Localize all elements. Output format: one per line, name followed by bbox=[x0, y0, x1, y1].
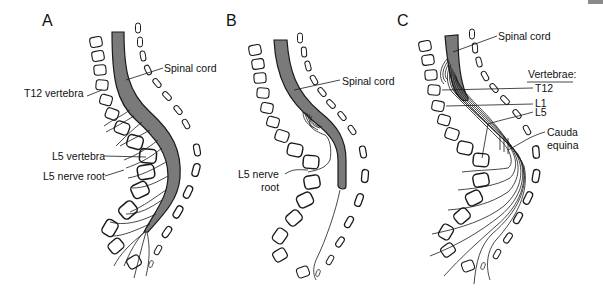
panel-c-label-equina: equina bbox=[547, 139, 579, 151]
panel-a-t12-leader bbox=[87, 90, 102, 96]
panel-a-label-spinal-cord: Spinal cord bbox=[164, 62, 217, 74]
spine-diagram bbox=[0, 0, 603, 294]
panel-a-label-t12-vertebra: T12 vertebra bbox=[24, 87, 84, 99]
panel-c-label-spinal-cord: Spinal cord bbox=[498, 30, 551, 42]
panel-c-l1-leader bbox=[446, 104, 533, 106]
panel-c-label-t12: T12 bbox=[535, 82, 553, 94]
panel-b-label-spinal-cord: Spinal cord bbox=[342, 75, 395, 87]
panel-b-drawing bbox=[248, 33, 369, 280]
panel-label-a: A bbox=[42, 12, 53, 30]
panel-a-label-l5-vertebra: L5 vertebra bbox=[52, 150, 105, 162]
panel-c-label-vertebrae: Vertebrae: bbox=[528, 68, 576, 80]
panel-c-cauda-equina bbox=[430, 58, 525, 284]
panel-c-l5-leader bbox=[482, 112, 533, 158]
panel-c-label-cauda: Cauda bbox=[547, 126, 578, 138]
panel-a-spinal-cord-leader bbox=[126, 68, 163, 80]
panel-a-label-l5-nerve-root: L5 nerve root bbox=[43, 170, 105, 182]
panel-b-label-root: root bbox=[261, 181, 279, 193]
panel-c-label-l5: L5 bbox=[535, 106, 547, 118]
panel-b-l5-root-leader bbox=[285, 170, 308, 174]
panel-label-b: B bbox=[226, 12, 237, 30]
panel-a-l5-root-leader bbox=[105, 170, 124, 176]
panel-b-label-l5-nerve: L5 nerve bbox=[238, 168, 279, 180]
panel-label-c: C bbox=[397, 12, 409, 30]
panel-c-spinous-processes bbox=[470, 29, 541, 270]
